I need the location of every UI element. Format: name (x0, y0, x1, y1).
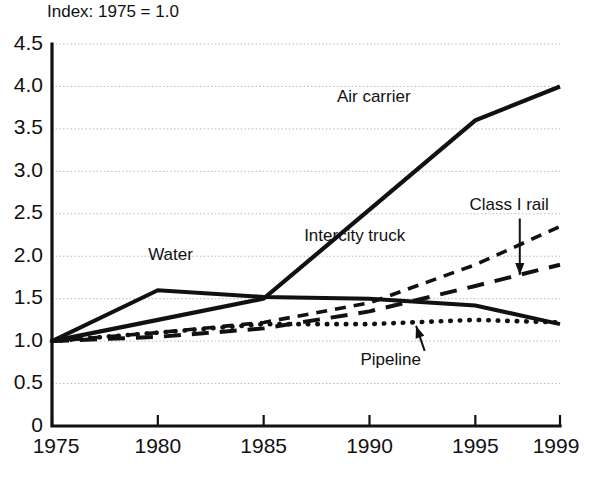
series-line-pipeline (52, 320, 560, 341)
tickmarks-group (52, 415, 560, 426)
x-tick-label: 1999 (533, 434, 580, 457)
y-tick-label: 4.5 (14, 31, 43, 54)
series-label-water: Water (148, 245, 193, 264)
y-tick-label: 2.0 (14, 243, 43, 266)
series-label-air-carrier: Air carrier (337, 87, 411, 106)
y-tick-label: 0.5 (14, 370, 43, 393)
chart-figure: 00.51.01.52.02.53.03.54.04.5 19751980198… (0, 0, 590, 489)
x-tick-label: 1985 (240, 434, 287, 457)
y-tick-label: 3.0 (14, 158, 43, 181)
y-tick-label: 2.5 (14, 200, 43, 223)
series-lines-group (52, 86, 560, 341)
arrow-head (416, 326, 425, 339)
annotation-arrow-pipeline (416, 326, 425, 351)
series-label-intercity-truck: Intercity truck (304, 226, 406, 245)
x-tick-label: 1980 (134, 434, 181, 457)
x-tick-label: 1975 (33, 434, 80, 457)
y-tick-label: 3.5 (14, 115, 43, 138)
y-tick-label: 1.5 (14, 285, 43, 308)
x-axis-tick-labels: 197519801985199019951999 (33, 434, 580, 457)
chart-title: Index: 1975 = 1.0 (47, 2, 179, 21)
series-label-pipeline: Pipeline (360, 350, 421, 369)
y-tick-label: 0 (31, 413, 43, 436)
series-label-class-i-rail: Class I rail (470, 195, 549, 214)
x-tick-label: 1990 (346, 434, 393, 457)
y-tick-label: 1.0 (14, 328, 43, 351)
y-tick-label: 4.0 (14, 73, 43, 96)
line-chart: 00.51.01.52.02.53.03.54.04.5 19751980198… (0, 0, 590, 489)
x-tick-label: 1995 (452, 434, 499, 457)
gridlines-group (52, 44, 560, 384)
y-axis-tick-labels: 00.51.01.52.02.53.03.54.04.5 (14, 31, 43, 436)
